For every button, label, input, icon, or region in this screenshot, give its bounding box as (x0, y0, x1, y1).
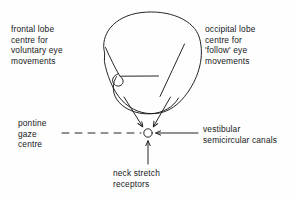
frontal-lobe-label-line-2: centre for (11, 35, 63, 46)
pontine-gaze-centre-label-line-3: centre (18, 139, 47, 150)
pontine-gaze-centre-node (144, 129, 152, 137)
neck-stretch-receptors-label: neck stretch receptors (113, 168, 160, 189)
cortex-fold-line-left (106, 48, 120, 76)
occipital-lobe-label-line-3: 'follow' eye (205, 45, 256, 56)
pontine-gaze-centre-label: pontine gaze centre (18, 118, 47, 150)
frontal-lobe-label-line-3: voluntary eye (11, 45, 63, 56)
cortex-fold-line-right (160, 44, 185, 97)
brain-outline (104, 12, 202, 114)
vestibular-label-line-1: vestibular (203, 124, 277, 135)
vestibular-label-line-2: semicircular canals (203, 135, 277, 146)
occipital-lobe-label-line-2: centre for (205, 35, 256, 46)
figure-root: frontal lobe centre for voluntary eye mo… (0, 0, 296, 198)
pontine-gaze-centre-label-line-2: gaze (18, 129, 47, 140)
occipital-lobe-label: occipital lobe centre for 'follow' eye m… (205, 24, 256, 66)
pontine-gaze-centre-label-line-1: pontine (18, 118, 47, 129)
occipital-lobe-label-line-4: movements (205, 56, 256, 67)
frontal-lobe-label-line-4: movements (11, 56, 63, 67)
occipital-to-node-arrow (154, 97, 171, 127)
neck-stretch-receptors-label-line-1: neck stretch (113, 168, 160, 179)
occipital-lobe-label-line-1: occipital lobe (205, 24, 256, 35)
frontal-lobe-label: frontal lobe centre for voluntary eye mo… (11, 24, 63, 66)
vestibular-label: vestibular semicircular canals (203, 124, 277, 145)
neck-stretch-receptors-label-line-2: receptors (113, 179, 160, 190)
frontal-lobe-label-line-1: frontal lobe (11, 24, 63, 35)
